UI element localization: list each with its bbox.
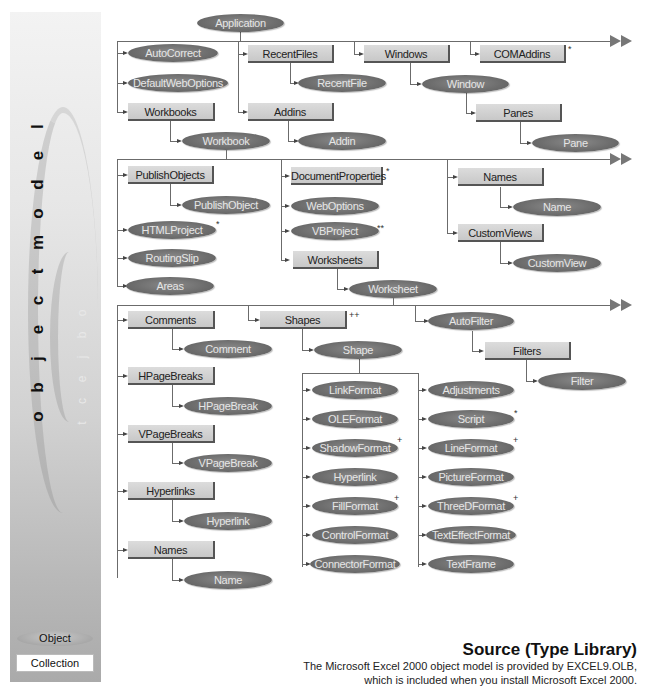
legend-object: Object	[17, 631, 93, 646]
node-texteffectformat: TextEffectFormat	[426, 526, 516, 544]
node-addin: Addin	[298, 132, 386, 150]
node-application: Application	[197, 14, 284, 32]
node-filters: Filters	[485, 342, 571, 360]
connector	[288, 121, 289, 141]
connector	[466, 93, 467, 113]
connector	[500, 242, 501, 263]
node-names-worksheet: Names	[128, 541, 215, 559]
arrow-icon	[422, 417, 427, 421]
node-hpagebreaks: HPageBreaks	[128, 367, 215, 385]
arrow-icon	[285, 229, 290, 233]
node-vpagebreak: VPageBreak	[184, 454, 272, 472]
footnote-mark: **	[377, 223, 384, 233]
arrow-icon	[422, 446, 427, 450]
node-areas: Areas	[126, 277, 214, 295]
connector	[290, 63, 291, 83]
node-textframe: TextFrame	[428, 555, 514, 573]
connector	[172, 385, 173, 406]
ghost-letter: c	[71, 391, 93, 411]
arrow-icon	[306, 446, 311, 450]
footnote-mark: *	[514, 408, 518, 418]
footnote-mark: +	[397, 435, 402, 445]
node-hyperlink-shape: Hyperlink	[312, 468, 398, 486]
connector	[117, 159, 118, 286]
node-panes: Panes	[476, 104, 562, 122]
connector	[281, 159, 282, 260]
arrow-icon	[285, 204, 290, 208]
connector	[470, 41, 471, 54]
source-title: Source (Type Library)	[463, 640, 637, 660]
node-name-workbook: Name	[513, 198, 601, 216]
connector	[172, 329, 173, 349]
node-hpagebreak: HPageBreak	[184, 397, 272, 415]
bus-line	[117, 159, 612, 160]
node-recentfiles: RecentFiles	[248, 45, 334, 63]
connector	[359, 359, 360, 373]
arrow-icon	[285, 258, 290, 262]
node-oleformat: OLEFormat	[312, 410, 398, 428]
arrow-icon	[306, 417, 311, 421]
node-publishobject: PublishObject	[182, 196, 270, 214]
bus-line	[117, 41, 612, 42]
node-connectorformat: ConnectorFormat	[310, 555, 400, 573]
title-letter: e	[23, 317, 52, 343]
arrow-icon	[422, 504, 427, 508]
footnote-mark: +	[513, 493, 518, 503]
title-letter: m	[23, 230, 52, 256]
arrow-icon	[479, 349, 484, 353]
connector	[415, 305, 416, 321]
node-shape: Shape	[314, 341, 402, 359]
connector	[226, 150, 227, 159]
title-letter: e	[23, 143, 52, 169]
connector	[302, 373, 303, 567]
node-lineformat: LineFormat	[428, 439, 514, 457]
title-letter: o	[23, 404, 52, 430]
connector	[248, 305, 249, 320]
node-workbooks: Workbooks	[128, 103, 215, 121]
continue-arrow-icon	[610, 153, 621, 165]
connector	[447, 159, 448, 234]
connector	[526, 360, 527, 381]
ghost-letter: e	[71, 369, 93, 389]
footnote-mark: +	[394, 493, 399, 503]
title-letter: c	[23, 288, 52, 314]
node-defaultweboptions: DefaultWebOptions	[128, 74, 228, 92]
node-addins: Addins	[248, 103, 334, 121]
node-pane: Pane	[532, 134, 619, 152]
node-shadowformat: ShadowFormat	[312, 439, 398, 457]
arrow-icon	[422, 562, 427, 566]
ghost-letter: j	[71, 347, 93, 367]
node-publishobjects: PublishObjects	[128, 166, 214, 184]
footnote-mark: ++	[349, 310, 360, 320]
node-threedformat: ThreeDFormat	[428, 497, 514, 515]
connector	[170, 121, 171, 141]
vertical-title: l e d o m t c e j b o	[24, 112, 50, 431]
connector	[240, 32, 241, 41]
arrow-icon	[306, 504, 311, 508]
continue-arrow-icon	[610, 35, 621, 47]
connector	[354, 41, 355, 54]
connector	[117, 41, 118, 112]
node-comment: Comment	[184, 340, 272, 358]
connector	[238, 41, 239, 112]
bus-line	[117, 305, 612, 306]
continue-arrow-icon	[621, 153, 632, 165]
node-controlformat: ControlFormat	[312, 526, 398, 544]
node-comaddins: COMAddins	[480, 45, 566, 63]
connector	[172, 500, 173, 521]
connector	[170, 184, 171, 205]
node-worksheets: Worksheets	[293, 251, 379, 269]
title-letter: j	[23, 346, 52, 372]
ghost-letter: t	[71, 413, 93, 433]
source-line-2: which is included when you install Micro…	[303, 673, 637, 687]
ghost-letter: o	[71, 303, 93, 323]
title-letter: d	[23, 172, 52, 198]
footnote-mark: *	[216, 219, 220, 229]
node-filter: Filter	[538, 372, 626, 390]
node-pictureformat: PictureFormat	[428, 468, 514, 486]
arrow-icon	[306, 533, 311, 537]
source-description: The Microsoft Excel 2000 object model is…	[303, 659, 637, 687]
title-letter: t	[23, 259, 52, 285]
arrow-icon	[306, 475, 311, 479]
node-script: Script	[428, 410, 514, 428]
